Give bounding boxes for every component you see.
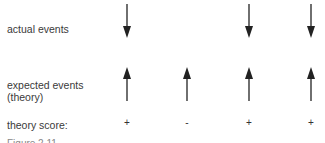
expected-events-label: expected events (theory) (7, 79, 83, 103)
actual-event-down-arrow-icon (121, 4, 133, 38)
score-plus: + (121, 117, 133, 128)
expected-event-up-arrow-icon (121, 67, 133, 101)
score-minus: - (181, 117, 193, 128)
theory-score-label: theory score: (7, 119, 68, 131)
expected-events-line1: expected events (7, 79, 83, 91)
score-plus: + (305, 117, 317, 128)
score-plus: + (243, 117, 255, 128)
expected-event-up-arrow-icon (243, 67, 255, 101)
actual-event-down-arrow-icon (243, 4, 255, 38)
figure-caption: Figure 2.11 (7, 138, 57, 143)
expected-event-up-arrow-icon (181, 67, 193, 101)
actual-event-down-arrow-icon (305, 4, 317, 38)
expected-event-up-arrow-icon (305, 67, 317, 101)
expected-events-line2: (theory) (7, 91, 83, 103)
actual-events-label: actual events (7, 23, 69, 35)
